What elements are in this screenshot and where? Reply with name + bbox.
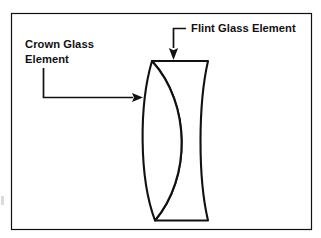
lens-diagram-svg: Crown Glass Element Flint Glass Element: [0, 0, 321, 238]
diagram-canvas: Crown Glass Element Flint Glass Element: [0, 0, 321, 238]
crown-glass-label-line-2: Element: [25, 53, 69, 65]
doublet-lens-drawing: [143, 61, 208, 221]
flint-glass-label-line-1: Flint Glass Element: [191, 22, 296, 34]
crown-glass-label-line-1: Crown Glass: [25, 38, 94, 50]
flint-glass-element-label: Flint Glass Element: [191, 22, 296, 34]
scan-artifact-speck: [1, 196, 4, 205]
